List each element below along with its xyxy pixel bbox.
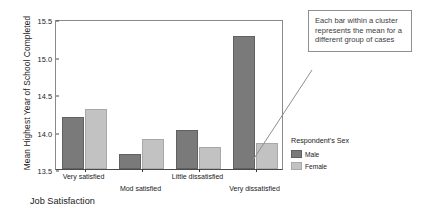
x-axis-tick-label: Very satisfied xyxy=(63,173,105,180)
annotation-callout: Each bar within a cluster represents the… xyxy=(308,10,412,52)
plot-area: 13.514.014.515.015.5 xyxy=(55,20,283,170)
legend-item-female: Female xyxy=(291,162,349,170)
y-axis-tick-label: 15.5 xyxy=(38,17,56,26)
bar-chart: Mean Highest Year of School Completed 13… xyxy=(0,0,426,212)
x-axis-tick-label: Little dissatisfied xyxy=(172,173,223,180)
y-axis-title: Mean Highest Year of School Completed xyxy=(22,8,32,178)
bar-male-2 xyxy=(176,130,198,169)
bar-female-3 xyxy=(256,143,278,169)
legend: Respondent's Sex Male Female xyxy=(291,136,349,174)
x-axis-tick-label: Mod satisfied xyxy=(120,185,161,192)
bar-male-0 xyxy=(62,117,84,169)
x-axis-tick-mark xyxy=(256,169,257,172)
x-axis-tick-mark xyxy=(85,169,86,172)
legend-label-female: Female xyxy=(305,163,327,170)
x-axis-tick-mark xyxy=(142,169,143,172)
legend-title: Respondent's Sex xyxy=(291,136,349,145)
x-axis-tick-label: Very dissatisfied xyxy=(229,185,280,192)
legend-label-male: Male xyxy=(305,151,319,158)
legend-swatch-male-icon xyxy=(291,150,302,158)
legend-swatch-female-icon xyxy=(291,162,302,170)
y-axis-tick-mark xyxy=(56,171,59,172)
legend-item-male: Male xyxy=(291,150,349,158)
y-axis-tick-mark xyxy=(56,96,59,97)
y-axis-tick-label: 14.5 xyxy=(38,92,56,101)
bar-female-0 xyxy=(85,109,107,169)
y-axis-tick-mark xyxy=(56,133,59,134)
y-axis-tick-mark xyxy=(56,21,59,22)
bar-female-2 xyxy=(199,147,221,170)
x-axis-title: Job Satisfaction xyxy=(30,196,95,206)
x-axis-tick-mark xyxy=(199,169,200,172)
y-axis-tick-mark xyxy=(56,58,59,59)
y-axis-tick-label: 15.0 xyxy=(38,54,56,63)
bar-male-1 xyxy=(119,154,141,169)
bar-male-3 xyxy=(233,36,255,170)
y-axis-tick-label: 13.5 xyxy=(38,167,56,176)
bar-female-1 xyxy=(142,139,164,169)
y-axis-tick-label: 14.0 xyxy=(38,129,56,138)
